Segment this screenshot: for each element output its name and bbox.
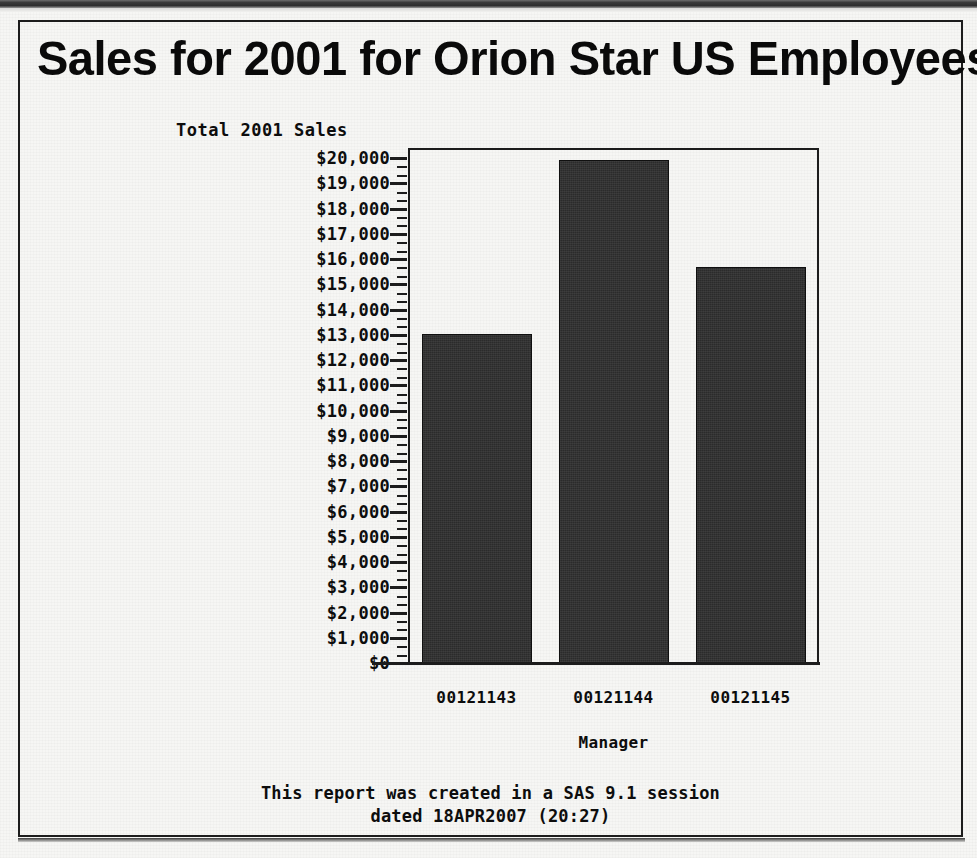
y-tick-minor (397, 301, 407, 303)
y-tick-minor (397, 267, 407, 269)
y-tick-label: $16,000 (316, 251, 390, 268)
y-tick-major (390, 586, 407, 589)
y-tick-minor (397, 276, 407, 278)
y-tick-major (390, 283, 407, 286)
y-tick-label: $18,000 (316, 200, 390, 217)
x-tick-label: 00121145 (710, 688, 790, 707)
y-tick-minor (397, 453, 407, 455)
y-tick-minor (397, 318, 407, 320)
y-tick-label: $20,000 (316, 150, 390, 167)
y-tick-minor (397, 469, 407, 471)
y-tick-minor (397, 368, 407, 370)
x-axis-label: Manager (408, 733, 819, 752)
y-tick-minor (397, 528, 407, 530)
y-tick-label: $9,000 (327, 427, 390, 444)
y-tick-minor (397, 646, 407, 648)
y-tick-major (390, 334, 407, 337)
y-tick-label: $12,000 (316, 352, 390, 369)
y-tick-minor (397, 604, 407, 606)
y-tick-label: $7,000 (327, 478, 390, 495)
y-tick-major (390, 258, 407, 261)
y-tick-minor (397, 175, 407, 177)
y-tick-label: $5,000 (327, 528, 390, 545)
y-tick-label: $19,000 (316, 175, 390, 192)
y-tick-minor (397, 596, 407, 598)
footnote-line-1: This report was created in a SAS 9.1 ses… (18, 782, 963, 805)
x-tick-label: 00121144 (573, 688, 653, 707)
y-tick-major (390, 233, 407, 236)
y-tick-minor (397, 217, 407, 219)
y-axis-tick-labels: $20,000$19,000$18,000$17,000$16,000$15,0… (240, 0, 390, 858)
y-tick-label: $13,000 (316, 326, 390, 343)
y-tick-major (390, 157, 407, 160)
y-tick-minor (397, 343, 407, 345)
y-tick-minor (397, 242, 407, 244)
y-tick-minor (397, 352, 407, 354)
y-tick-label: $11,000 (316, 377, 390, 394)
y-tick-label: $15,000 (316, 276, 390, 293)
chart-title: Sales for 2001 for Orion Star US Employe… (37, 30, 944, 86)
y-tick-major (390, 511, 407, 514)
y-tick-major (390, 485, 407, 488)
bar (422, 334, 532, 665)
x-tick-label: 00121143 (436, 688, 516, 707)
y-tick-major (390, 410, 407, 413)
y-tick-minor (397, 655, 407, 657)
y-tick-major (390, 435, 407, 438)
y-tick-major (390, 460, 407, 463)
y-tick-minor (397, 394, 407, 396)
y-tick-major (390, 359, 407, 362)
y-tick-major (390, 612, 407, 615)
y-tick-minor (397, 503, 407, 505)
y-tick-minor (397, 419, 407, 421)
y-tick-major (390, 208, 407, 211)
y-tick-minor (397, 166, 407, 168)
y-tick-minor (397, 377, 407, 379)
y-tick-minor (397, 621, 407, 623)
y-tick-minor (397, 444, 407, 446)
plot-area (408, 148, 819, 664)
x-axis-baseline (372, 662, 820, 665)
y-tick-label: $17,000 (316, 225, 390, 242)
y-tick-major (390, 561, 407, 564)
y-tick-minor (397, 427, 407, 429)
scan-edge-band (0, 0, 977, 8)
y-tick-minor (397, 629, 407, 631)
report-border-shadow (18, 838, 965, 842)
y-tick-label: $1,000 (327, 629, 390, 646)
bar (559, 160, 669, 665)
y-tick-minor (397, 225, 407, 227)
y-tick-label: $10,000 (316, 402, 390, 419)
y-tick-minor (397, 570, 407, 572)
y-tick-minor (397, 402, 407, 404)
y-tick-minor (397, 251, 407, 253)
y-tick-major (390, 309, 407, 312)
y-tick-minor (397, 200, 407, 202)
y-tick-minor (397, 495, 407, 497)
scan-edge-band-lower (0, 8, 977, 12)
y-tick-major (390, 182, 407, 185)
y-tick-label: $14,000 (316, 301, 390, 318)
y-tick-minor (397, 579, 407, 581)
y-tick-major (390, 384, 407, 387)
bar (696, 267, 806, 665)
footnote: This report was created in a SAS 9.1 ses… (18, 782, 963, 828)
y-tick-label: $4,000 (327, 554, 390, 571)
y-tick-major (390, 637, 407, 640)
y-tick-minor (397, 520, 407, 522)
y-tick-label: $2,000 (327, 604, 390, 621)
y-tick-minor (397, 326, 407, 328)
y-tick-label: $8,000 (327, 453, 390, 470)
y-tick-minor (397, 554, 407, 556)
y-tick-minor (397, 192, 407, 194)
footnote-line-2: dated 18APR2007 (20:27) (18, 805, 963, 828)
y-tick-label: $6,000 (327, 503, 390, 520)
y-tick-label: $3,000 (327, 579, 390, 596)
y-tick-minor (397, 478, 407, 480)
y-tick-minor (397, 293, 407, 295)
y-tick-major (390, 536, 407, 539)
y-tick-minor (397, 545, 407, 547)
